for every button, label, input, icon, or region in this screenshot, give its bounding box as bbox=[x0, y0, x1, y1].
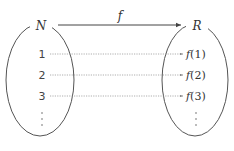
function-diagram: N R f 1 f(1) 2 f(2) 3 f(3) bbox=[0, 0, 234, 151]
mapping-label: f bbox=[117, 9, 125, 23]
codomain-element-1: f(1) bbox=[185, 48, 206, 61]
domain-set-label: N bbox=[35, 19, 47, 33]
codomain-element-3: f(3) bbox=[185, 90, 206, 103]
domain-element-2: 2 bbox=[39, 69, 46, 82]
codomain-element-2: f(2) bbox=[185, 69, 206, 82]
domain-element-3: 3 bbox=[39, 90, 46, 103]
codomain-set-label: R bbox=[191, 19, 201, 33]
codomain-continuation-dots bbox=[195, 112, 197, 126]
domain-element-1: 1 bbox=[39, 48, 46, 61]
domain-continuation-dots bbox=[41, 112, 43, 126]
